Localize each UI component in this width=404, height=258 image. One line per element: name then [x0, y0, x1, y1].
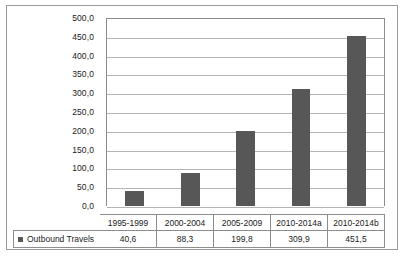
y-axis-tick-label: 350,0 [72, 69, 94, 79]
y-axis-tick-label: 50,0 [77, 182, 94, 192]
bar-2010-2014a[interactable] [292, 89, 311, 206]
y-axis-tick-label: 250,0 [72, 107, 94, 117]
gridline [107, 207, 384, 208]
square-marker-icon [18, 237, 23, 242]
y-axis-tick-label: 0,0 [82, 201, 94, 211]
legend-label: Outbound Travels [27, 234, 94, 244]
category-label-2005-2009: 2005-2009 [214, 214, 271, 230]
data-table: 1995-19992000-20042005-20092010-2014a201… [13, 214, 385, 248]
legend-entry: Outbound Travels [13, 230, 100, 248]
bar-slot [162, 19, 217, 206]
table-header-corner [13, 214, 100, 230]
category-label-1995-1999: 1995-1999 [100, 214, 157, 230]
bar-2010-2014b[interactable] [347, 36, 366, 206]
y-axis-tick-label: 500,0 [72, 13, 94, 23]
y-axis-tick-label: 450,0 [72, 32, 94, 42]
value-cell-1995-1999: 40,6 [100, 230, 157, 248]
y-axis-tick-label: 150,0 [72, 145, 94, 155]
bar-slot [329, 19, 384, 206]
table-value-row: Outbound Travels 40,688,3199,8309,9451,5 [13, 230, 385, 248]
table-header-row: 1995-19992000-20042005-20092010-2014a201… [13, 214, 385, 230]
plot-area [106, 18, 385, 206]
plot-region: 500,0450,0400,0350,0300,0250,0200,0150,0… [7, 6, 397, 214]
bar-slot [218, 19, 273, 206]
value-cell-2010-2014b: 451,5 [328, 230, 385, 248]
category-label-2010-2014b: 2010-2014b [328, 214, 385, 230]
bar-2000-2004[interactable] [181, 173, 200, 206]
value-cell-2010-2014a: 309,9 [271, 230, 328, 248]
y-axis-tick-label: 300,0 [72, 88, 94, 98]
value-cell-2000-2004: 88,3 [157, 230, 214, 248]
y-axis-tick-label: 100,0 [72, 163, 94, 173]
bar-2005-2009[interactable] [236, 131, 255, 206]
bar-slot [107, 19, 162, 206]
chart-frame: 500,0450,0400,0350,0300,0250,0200,0150,0… [6, 5, 398, 250]
y-axis-tick-label: 400,0 [72, 51, 94, 61]
value-cell-2005-2009: 199,8 [214, 230, 271, 248]
category-label-2000-2004: 2000-2004 [157, 214, 214, 230]
y-axis-tick-label: 200,0 [72, 126, 94, 136]
bar-1995-1999[interactable] [125, 191, 144, 206]
bar-series-outbound-travels [107, 19, 384, 206]
bar-slot [273, 19, 328, 206]
y-axis: 500,0450,0400,0350,0300,0250,0200,0150,0… [7, 6, 100, 206]
category-label-2010-2014a: 2010-2014a [271, 214, 328, 230]
